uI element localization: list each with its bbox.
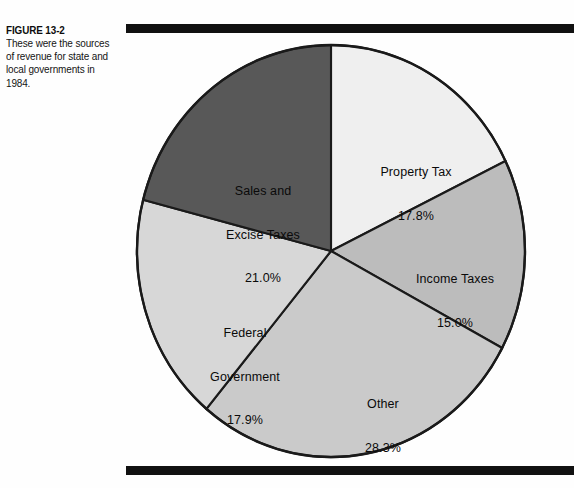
top-rule	[126, 24, 574, 33]
pie-chart: Property Tax 17.8% Income Taxes 15.0% Ot…	[128, 38, 548, 468]
figure-number: FIGURE 13-2	[6, 24, 111, 36]
pie-chart-svg	[128, 38, 548, 468]
figure-caption-text: These were the sources of revenue for st…	[6, 37, 112, 90]
figure-page: FIGURE 13-2 These were the sources of re…	[0, 0, 574, 488]
figure-caption-block: FIGURE 13-2 These were the sources of re…	[6, 24, 118, 90]
pie-slice-group	[137, 45, 525, 457]
